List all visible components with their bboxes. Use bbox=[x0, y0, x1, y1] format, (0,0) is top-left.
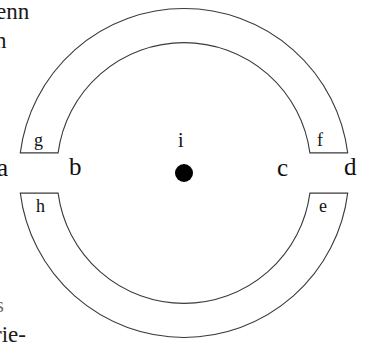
label-a-axis: a bbox=[0, 155, 8, 180]
label-i-center: i bbox=[178, 130, 184, 150]
margin-text-bottom-left-line-1: s bbox=[0, 293, 4, 318]
lower-ring-band bbox=[20, 193, 347, 337]
upper-ring-band bbox=[20, 9, 347, 153]
label-d-axis: d bbox=[344, 154, 357, 179]
label-g-segment: g bbox=[34, 131, 43, 149]
margin-text-top-left-line-2: n bbox=[0, 27, 7, 56]
center-dot-icon bbox=[175, 164, 193, 182]
label-b-axis: b bbox=[69, 154, 82, 179]
margin-text-bottom-left-line-2: rie- bbox=[0, 321, 26, 350]
label-h-segment: h bbox=[36, 197, 45, 215]
margin-text-top-left-line-1: enn bbox=[0, 0, 29, 27]
label-e-segment: e bbox=[319, 197, 327, 215]
label-c-axis: c bbox=[277, 155, 288, 180]
figure-page: i a b c d g f h e enn n s rie- bbox=[0, 0, 366, 357]
label-f-segment: f bbox=[317, 131, 323, 149]
annulus-diagram bbox=[0, 0, 366, 357]
